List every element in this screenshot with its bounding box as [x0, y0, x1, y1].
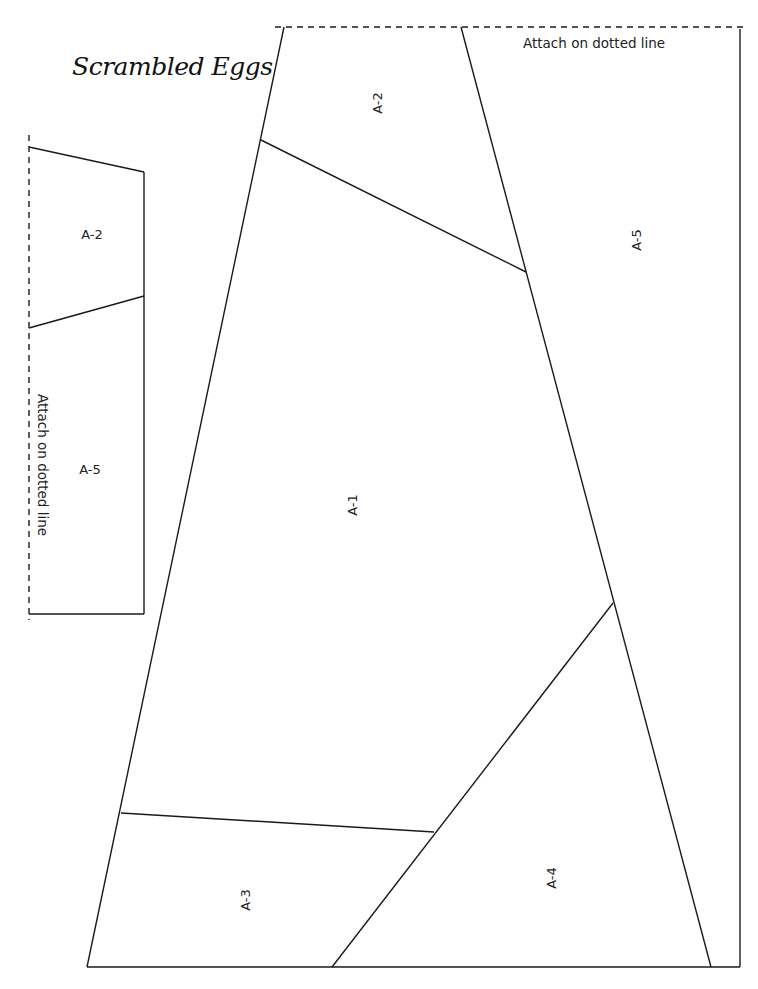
small-piece-divider — [29, 296, 144, 328]
seam-a1-a4 — [332, 603, 613, 967]
large-piece-label-a3: A-3 — [238, 889, 253, 911]
pattern-canvas — [0, 0, 758, 989]
large-piece-label-a2: A-2 — [370, 92, 385, 114]
page-title: Scrambled Eggs — [72, 52, 273, 81]
seam-a2-a1 — [261, 140, 526, 272]
large-piece-slanted-seam — [461, 27, 711, 967]
attach-instruction-top: Attach on dotted line — [523, 35, 665, 51]
large-piece-left-edge — [87, 27, 284, 967]
large-piece-label-a5: A-5 — [629, 229, 644, 251]
small-piece-label-a2: A-2 — [81, 227, 103, 242]
seam-a1-a3 — [121, 813, 434, 832]
large-piece-label-a1: A-1 — [345, 494, 360, 516]
large-piece-label-a4: A-4 — [544, 867, 559, 889]
attach-instruction-side: Attach on dotted line — [35, 394, 51, 536]
small-piece-top-edge — [29, 147, 144, 172]
small-piece-label-a5: A-5 — [79, 462, 101, 477]
